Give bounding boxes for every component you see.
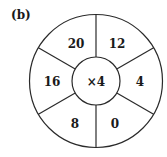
center-operator: ×4: [87, 75, 105, 89]
segment-top-left: 20: [68, 37, 85, 51]
segment-right: 4: [136, 75, 144, 89]
segment-bottom-left: 8: [71, 117, 79, 131]
multiplication-wheel: 12 4 0 8 16 20 ×4: [0, 0, 167, 157]
segment-bottom-right: 0: [111, 117, 119, 131]
segment-left: 16: [44, 75, 61, 89]
segment-top-right: 12: [109, 37, 126, 51]
